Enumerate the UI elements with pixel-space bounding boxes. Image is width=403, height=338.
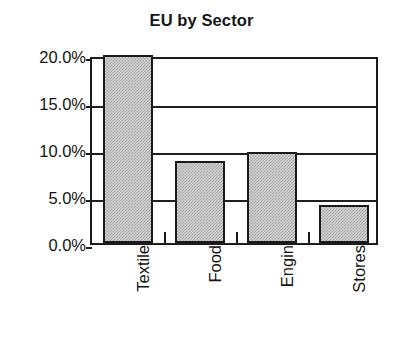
x-axis-tick-mark (164, 232, 166, 243)
x-axis: TextileFoodEnginStores (90, 245, 378, 338)
y-axis-tick-mark (86, 59, 92, 61)
y-axis-tick-label: 10.0% (2, 142, 86, 161)
x-axis-tick-label: Textile (134, 245, 153, 292)
bar-textile[interactable] (103, 55, 153, 243)
y-axis-tick-mark (86, 200, 92, 202)
x-axis-tick-label-text: Stores (350, 245, 369, 293)
bar-food[interactable] (175, 161, 225, 243)
bar-stores[interactable] (319, 205, 369, 243)
x-axis-tick-label-text: Food (206, 245, 225, 283)
x-axis-tick-label: Food (206, 245, 225, 283)
bar-engin[interactable] (247, 152, 297, 243)
y-axis-tick-label: 15.0% (2, 95, 86, 114)
x-axis-tick-label: Engin (278, 245, 297, 287)
x-axis-tick-mark (236, 232, 238, 243)
y-axis-tick-mark (86, 153, 92, 155)
y-axis-tick-label: 20.0% (2, 48, 86, 67)
y-axis: 0.0%5.0%10.0%15.0%20.0% (0, 0, 86, 338)
chart-container: EU by Sector 0.0%5.0%10.0%15.0%20.0% Tex… (0, 0, 403, 338)
x-axis-tick-label-text: Textile (134, 245, 153, 292)
y-axis-tick-mark (86, 106, 92, 108)
x-axis-tick-mark (308, 232, 310, 243)
plot-inner (92, 59, 376, 243)
y-axis-tick-label: 0.0% (2, 236, 86, 255)
y-axis-tick-label: 5.0% (2, 189, 86, 208)
x-axis-tick-label-text: Engin (278, 245, 297, 287)
x-axis-tick-label: Stores (350, 245, 369, 293)
plot-area (90, 57, 378, 245)
